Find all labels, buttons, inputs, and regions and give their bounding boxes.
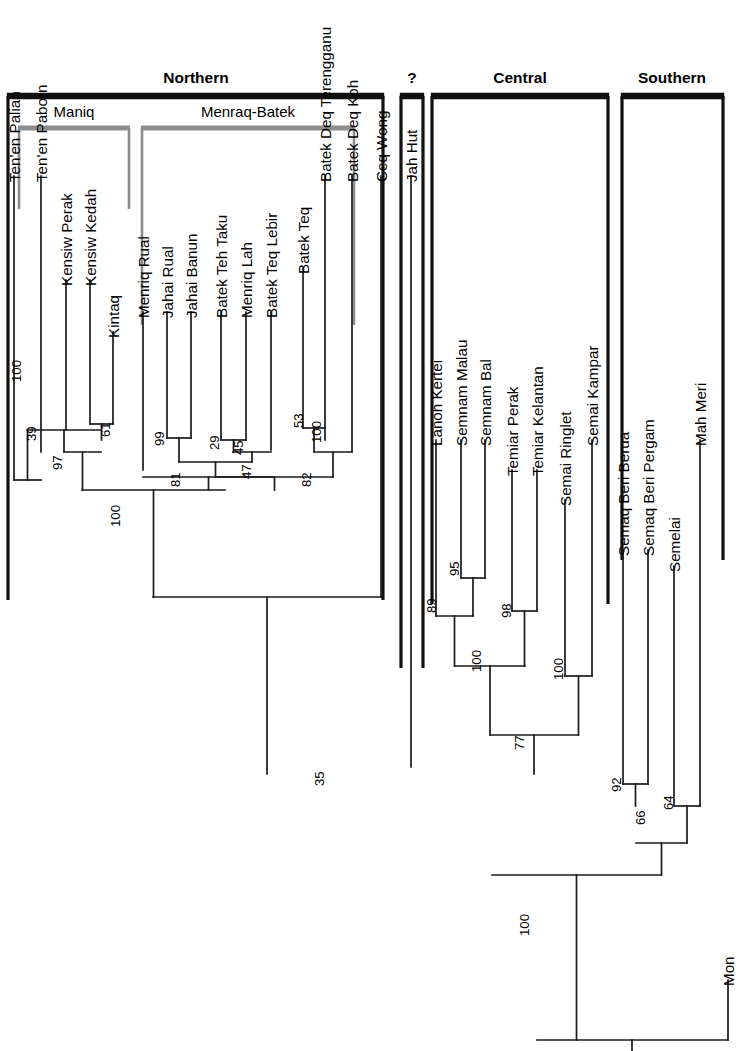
group-brackets [7, 96, 724, 668]
taxon-label-25: Semelai [666, 517, 683, 572]
taxon-label-1: Ten'en Paborn [33, 85, 50, 182]
taxon-label-0: Ten'en Palian [6, 91, 23, 182]
phylogenetic-tree-figure: Ten'en PalianTen'en PabornKensiw PerakKe… [0, 0, 748, 1051]
taxon-label-23: Semaq Beri Berua [615, 431, 632, 556]
taxon-label-8: Batek Teh Taku [213, 215, 230, 318]
support-label-n_semai: 100 [551, 658, 566, 680]
support-label-n_bteh: 29 [207, 435, 222, 450]
taxon-label-12: Batek Deq Terengganu [317, 27, 334, 182]
support-label-n_kensiw: 61 [98, 422, 113, 437]
support-label-n_tenen: 100 [9, 360, 24, 382]
taxon-label-15: Jah Hut [403, 129, 420, 182]
taxon-label-7: Jahai Banun [183, 234, 200, 318]
support-label-n_bteh3: 47 [239, 464, 254, 479]
support-label-n_southern: 66 [633, 810, 648, 825]
taxon-label-24: Semaq Beri Pergam [640, 419, 657, 556]
support-label-n_semnam: 95 [447, 561, 462, 576]
support-label-n_central: 77 [512, 735, 527, 750]
support-label-n_batek: 82 [299, 472, 314, 487]
support-label-n_bdeq2: 100 [309, 421, 324, 443]
tree-canvas: Ten'en PalianTen'en PabornKensiw PerakKe… [0, 0, 748, 1051]
subgroup-label-menraq-batek: Menraq-Batek [201, 103, 296, 120]
support-label-n_maniq: 97 [50, 455, 65, 470]
support-label-n_northern: 100 [108, 505, 123, 527]
taxon-label-2: Kensiw Perak [58, 193, 75, 286]
support-label-n_bdeq: 53 [291, 413, 306, 428]
taxon-label-22: Semai Kampar [584, 346, 601, 446]
taxon-label-16: Lanoh Kertei [428, 360, 445, 446]
support-value-labels: 1006139979929454753100828110035958998100… [9, 360, 676, 936]
taxon-label-20: Temiar Kelantan [529, 366, 546, 476]
group-label-northern: Northern [163, 69, 228, 86]
support-label-n_aslian: 100 [517, 914, 532, 936]
taxon-label-3: Kensiw Kedah [82, 189, 99, 286]
support-label-n_mb: 81 [168, 472, 183, 487]
support-label-n_jahai: 99 [152, 431, 167, 446]
support-label-n_bteh2: 45 [231, 440, 246, 455]
taxon-label-19: Temiar Perak [504, 386, 521, 476]
support-label-n_maniq_a: 39 [24, 426, 39, 441]
taxon-label-11: Batek Teq [295, 207, 312, 274]
taxon-label-5: Menriq Rual [135, 236, 152, 318]
taxon-label-4: Kintaq [105, 295, 122, 338]
taxon-label-18: Semnam Bal [477, 359, 494, 446]
taxon-label-14: Ceq Wong [373, 111, 390, 182]
taxon-label-17: Semnam Malau [453, 340, 470, 446]
taxon-label-10: Batek Teq Lebir [263, 213, 280, 318]
taxon-label-6: Jahai Rual [159, 246, 176, 318]
taxon-label-13: Batek Deq Koh [344, 80, 361, 182]
subgroup-label-maniq: Maniq [54, 103, 95, 120]
group-label-southern: Southern [638, 69, 706, 86]
taxon-label-21: Semai Ringlet [557, 411, 574, 506]
support-label-n_temiar: 98 [499, 603, 514, 618]
support-label-n_lanoh: 89 [424, 598, 439, 613]
taxon-label-26: Mah Meri [692, 383, 709, 446]
taxon-label-9: Menriq Lah [238, 242, 255, 318]
group-label-unknown: ? [407, 69, 416, 86]
taxon-label-27: Mon [720, 956, 737, 986]
support-label-n_semelai: 64 [661, 795, 676, 810]
group-label-central: Central [493, 69, 546, 86]
support-label-n_semaq: 92 [609, 777, 624, 792]
support-label-n_cen_a: 100 [469, 650, 484, 672]
support-label-n_cw_north: 35 [312, 771, 327, 786]
